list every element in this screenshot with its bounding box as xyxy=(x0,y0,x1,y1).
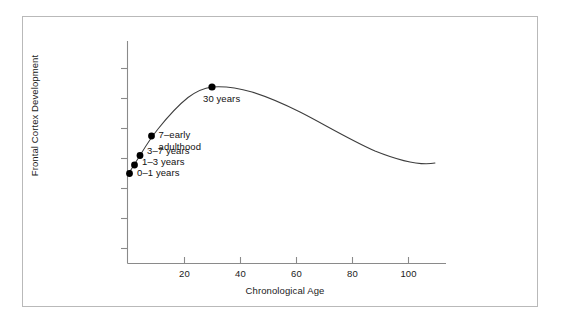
annotation-30-years: 30 years xyxy=(203,93,240,105)
marker-7-early-adulthood xyxy=(148,133,155,140)
chart-plot-area xyxy=(0,0,561,325)
x-tick-label-20: 20 xyxy=(170,268,200,279)
y-axis-ticks xyxy=(121,69,128,249)
x-tick-label-80: 80 xyxy=(338,268,368,279)
x-tick-label-60: 60 xyxy=(282,268,312,279)
x-tick-label-100: 100 xyxy=(394,268,424,279)
marker-30-years xyxy=(208,83,215,90)
annotation-0-1-years: 0–1 years xyxy=(137,167,180,179)
annotation-7-early-adulthood: 7–early adulthood xyxy=(159,129,202,152)
x-axis-ticks xyxy=(185,257,409,264)
marker-0-1-years xyxy=(126,170,133,177)
x-axis-title: Chronological Age xyxy=(195,285,375,296)
figure-canvas: Frontal Cortex Development Chronological… xyxy=(0,0,561,325)
annotation-1-3-years: 1–3 years xyxy=(142,156,185,168)
y-axis-title: Frontal Cortex Development xyxy=(29,36,40,196)
x-tick-label-40: 40 xyxy=(226,268,256,279)
